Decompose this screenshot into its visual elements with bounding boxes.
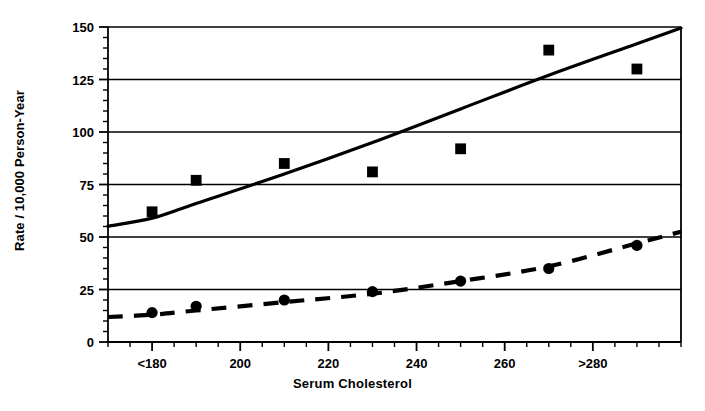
y-tick-label: 0 xyxy=(87,335,94,350)
x-tick-label: 220 xyxy=(318,356,340,371)
chart-figure: Rate / 10,000 Person-Year 15012510075502… xyxy=(0,0,705,411)
data-point-circle xyxy=(191,301,202,312)
x-tick-label: 240 xyxy=(406,356,428,371)
fit-curves-group xyxy=(108,28,681,317)
plot-area: 1501251007550250 <180200220240260>280 xyxy=(0,0,705,411)
y-tick-label: 50 xyxy=(80,230,94,245)
x-tick-label: >280 xyxy=(578,356,607,371)
data-point-circle xyxy=(146,307,157,318)
x-axis-title: Serum Cholesterol xyxy=(293,376,412,391)
x-tick-label: 260 xyxy=(494,356,516,371)
data-point-circle xyxy=(543,263,554,274)
data-point-square xyxy=(147,206,158,217)
y-tick-label: 25 xyxy=(80,283,94,298)
data-point-circle xyxy=(631,240,642,251)
y-tick-label: 75 xyxy=(80,178,94,193)
gridlines-group xyxy=(108,27,681,290)
y-tick-labels-group: 1501251007550250 xyxy=(72,20,94,350)
x-tick-label: <180 xyxy=(137,356,166,371)
data-point-square xyxy=(279,158,290,169)
y-tick-label: 125 xyxy=(72,73,94,88)
data-point-square xyxy=(455,143,466,154)
y-tick-label: 150 xyxy=(72,20,94,35)
y-tick-marks-group xyxy=(99,27,108,342)
trend-line-upper-series xyxy=(108,28,681,226)
data-point-square xyxy=(191,175,202,186)
data-point-square xyxy=(632,64,643,75)
y-tick-label: 100 xyxy=(72,125,94,140)
data-point-circle xyxy=(367,286,378,297)
x-tick-label: 200 xyxy=(229,356,251,371)
data-point-circle xyxy=(279,294,290,305)
data-markers-group xyxy=(146,45,642,319)
x-tick-marks-group xyxy=(108,342,681,351)
data-point-square xyxy=(543,45,554,56)
x-axis-title-container: Serum Cholesterol xyxy=(0,374,705,392)
data-point-square xyxy=(367,167,378,178)
x-tick-labels-group: <180200220240260>280 xyxy=(137,356,607,371)
data-point-circle xyxy=(455,276,466,287)
